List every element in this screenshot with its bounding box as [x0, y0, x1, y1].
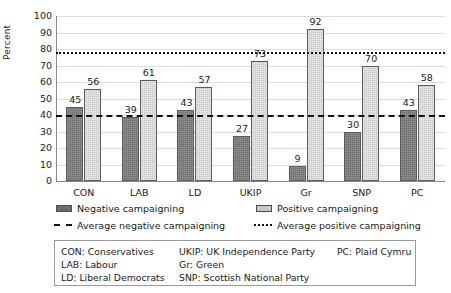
bar-ld-pos: [195, 87, 212, 181]
key-cell: LAB: Labour: [61, 258, 179, 271]
bar-lab-pos: [140, 80, 157, 181]
data-label: 92: [301, 17, 331, 27]
legend-label-average-negative: Average negative campaigning: [77, 220, 225, 231]
bar-group: 2773: [231, 0, 270, 200]
bar-pc-neg: [400, 110, 417, 181]
bar-group: 4556: [64, 0, 103, 200]
legend-label-positive: Positive campaigning: [277, 203, 378, 214]
plot-area: Percent 1009080706050403020100 455639614…: [0, 0, 451, 200]
x-axis-label-lab: LAB: [119, 188, 159, 198]
legend-swatch-positive-icon: [256, 205, 272, 212]
chart-legend: Negative campaigning Positive campaignin…: [0, 200, 451, 236]
reference-line-average-negative: [56, 115, 445, 117]
bar-ld-neg: [177, 110, 194, 181]
y-axis-tick-label: 80: [16, 44, 52, 54]
key-cell: Gr: Green: [179, 258, 337, 271]
bar-con-pos: [84, 89, 101, 181]
bar-snp-neg: [344, 132, 361, 182]
bar-snp-pos: [362, 66, 379, 182]
legend-label-average-positive: Average positive campaigning: [277, 220, 421, 231]
y-axis-tick-label: 90: [16, 28, 52, 38]
y-axis-tick-label: 70: [16, 61, 52, 71]
abbreviation-key-box: CON: Conservatives UKIP: UK Independence…: [54, 240, 416, 286]
y-axis-tick-label: 10: [16, 160, 52, 170]
key-row: CON: Conservatives UKIP: UK Independence…: [61, 245, 415, 258]
data-label: 57: [189, 75, 219, 85]
key-cell: UKIP: UK Independence Party: [179, 245, 337, 258]
x-axis-label-con: CON: [64, 188, 104, 198]
y-axis-tick-label: 50: [16, 94, 52, 104]
chart-figure: Percent 1009080706050403020100 455639614…: [0, 0, 451, 293]
bar-group: 4358: [398, 0, 437, 200]
key-cell: LD: Liberal Democrats: [61, 271, 179, 284]
data-label: 61: [134, 68, 164, 78]
key-cell: PC: Plaid Cymru: [337, 245, 411, 258]
data-label: 56: [78, 77, 108, 87]
y-axis-tick-label: 100: [16, 11, 52, 21]
data-label: 70: [356, 54, 386, 64]
bar-ukip-neg: [233, 136, 250, 181]
key-cell: CON: Conservatives: [61, 245, 179, 258]
x-axis-label-pc: PC: [397, 188, 437, 198]
legend-label-negative: Negative campaigning: [77, 203, 184, 214]
y-axis-title: Percent: [2, 25, 12, 60]
legend-item-average-negative: Average negative campaigning: [54, 221, 225, 231]
bar-lab-neg: [122, 117, 139, 181]
bar-group: 3070: [342, 0, 381, 200]
y-axis-tick-label: 30: [16, 127, 52, 137]
legend-item-negative: Negative campaigning: [56, 204, 184, 214]
legend-item-average-positive: Average positive campaigning: [254, 221, 421, 231]
x-axis-label-snp: SNP: [342, 188, 382, 198]
key-row: LD: Liberal Democrats SNP: Scottish Nati…: [61, 271, 415, 284]
bar-ukip-pos: [251, 61, 268, 181]
legend-line-dashed-icon: [54, 224, 72, 226]
key-row: LAB: Labour Gr: Green: [61, 258, 415, 271]
y-axis-tick-label: 20: [16, 143, 52, 153]
bar-group: 3961: [120, 0, 159, 200]
reference-line-average-positive: [56, 52, 445, 54]
y-axis-tick-label: 0: [16, 176, 52, 186]
x-axis-label-gr: Gr: [286, 188, 326, 198]
x-axis-label-ld: LD: [175, 188, 215, 198]
y-axis-tick-label: 60: [16, 77, 52, 87]
bar-groups: 455639614357277399230704358: [56, 0, 445, 200]
legend-item-positive: Positive campaigning: [256, 204, 378, 214]
legend-line-dotted-icon: [254, 224, 272, 226]
bar-group: 992: [287, 0, 326, 200]
bar-gr-neg: [289, 166, 306, 181]
data-label: 58: [412, 73, 442, 83]
x-axis-label-ukip: UKIP: [231, 188, 271, 198]
bar-con-neg: [66, 107, 83, 181]
y-axis-tick-label: 40: [16, 110, 52, 120]
legend-swatch-negative-icon: [56, 205, 72, 212]
bar-group: 4357: [175, 0, 214, 200]
key-cell: SNP: Scottish National Party: [179, 271, 337, 284]
bar-pc-pos: [418, 85, 435, 181]
